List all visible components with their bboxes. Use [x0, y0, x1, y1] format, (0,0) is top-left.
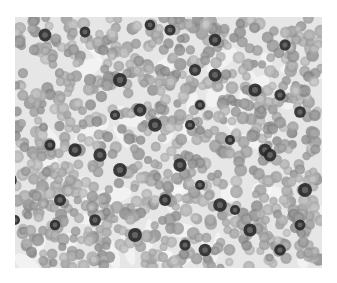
micrograph-image: [15, 17, 322, 268]
cell-field: [15, 17, 322, 268]
